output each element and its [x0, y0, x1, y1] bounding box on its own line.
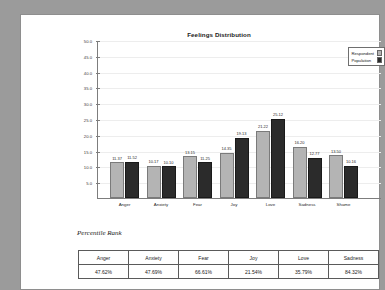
y-axis-tick-label: 5.0 — [86, 181, 92, 186]
y-axis-tick-label: 10.0 — [84, 165, 92, 170]
bar-value-label: 21.22 — [258, 124, 268, 129]
bar-respondent-sadness — [293, 147, 307, 198]
bar-value-label: 14.35 — [221, 146, 231, 151]
x-axis-line — [97, 198, 381, 199]
legend-label: Respondent — [351, 51, 374, 56]
y-axis-tick — [96, 167, 100, 168]
bar-respondent-shame — [329, 155, 343, 198]
category-label-love: Love — [266, 202, 276, 207]
table-col-header-anxiety: Anxiety — [129, 251, 179, 265]
y-axis-tick — [96, 183, 100, 184]
bar-value-label: 13.50 — [331, 149, 341, 154]
table-col-header-sadness: Sadness — [329, 251, 379, 265]
chart-title: Feelings Distribution — [139, 31, 299, 38]
y-axis-tick — [96, 57, 100, 58]
y-axis-tick-label: 35.0 — [84, 86, 92, 91]
category-label-fear: Fear — [193, 202, 202, 207]
bar-respondent-anger — [110, 162, 124, 198]
bar-value-label: 11.52 — [127, 155, 137, 160]
y-axis-tick — [96, 88, 100, 89]
chart-legend: Respondent Population — [348, 47, 385, 66]
bar-population-anger — [125, 162, 139, 198]
table-col-header-joy: Joy — [229, 251, 279, 265]
bar-respondent-joy — [220, 153, 234, 198]
y-axis-tick-label: 40.0 — [84, 70, 92, 75]
bar-value-label: 11.25 — [200, 156, 210, 161]
y-axis-tick — [96, 104, 100, 105]
legend-swatch-respondent — [377, 50, 382, 56]
table-cell-sadness: 84.32% — [329, 265, 379, 279]
gridline — [98, 41, 381, 42]
table-cell-love: 35.79% — [279, 265, 329, 279]
bar-respondent-love — [256, 131, 270, 198]
percentile-rank-table: AngerAnxietyFearJoyLoveSadness 47.62%47.… — [78, 250, 379, 279]
bar-population-fear — [198, 162, 212, 198]
bar-value-label: 10.16 — [346, 159, 356, 164]
legend-label: Population — [351, 58, 371, 63]
category-label-anxiety: Anxiety — [154, 202, 168, 207]
y-axis-tick — [96, 136, 100, 137]
chart-plot-area: 5.010.015.020.025.030.035.040.045.050.0 … — [97, 41, 381, 199]
table-header-row: AngerAnxietyFearJoyLoveSadness — [79, 251, 379, 265]
table-col-header-fear: Fear — [179, 251, 229, 265]
document-page: Feelings Distribution 5.010.015.020.025.… — [20, 14, 380, 290]
category-label-joy: Joy — [231, 202, 238, 207]
bar-population-shame — [344, 166, 358, 198]
table-cell-fear: 66.61% — [179, 265, 229, 279]
table-col-header-love: Love — [279, 251, 329, 265]
bar-population-sadness — [308, 158, 322, 198]
legend-item-population: Population — [351, 57, 382, 64]
y-axis-tick — [96, 41, 100, 42]
bar-value-label: 10.17 — [148, 159, 158, 164]
y-axis-tick — [96, 73, 100, 74]
bar-value-label: 25.12 — [273, 112, 283, 117]
feelings-distribution-chart: Feelings Distribution 5.010.015.020.025.… — [21, 15, 381, 220]
table-row: 47.62%47.69%66.61%21.54%35.79%84.32% — [79, 265, 379, 279]
table-cell-anger: 47.62% — [79, 265, 129, 279]
category-label-sadness: Sadness — [298, 202, 315, 207]
bar-value-label: 19.13 — [236, 131, 246, 136]
y-axis-tick-label: 30.0 — [84, 102, 92, 107]
table-cell-joy: 21.54% — [229, 265, 279, 279]
percentile-rank-heading: Percentile Rank — [77, 229, 122, 237]
bar-respondent-fear — [183, 156, 197, 198]
category-label-shame: Shame — [337, 202, 351, 207]
bar-value-label: 12.77 — [309, 151, 319, 156]
y-axis-tick — [96, 152, 100, 153]
bar-value-label: 16.20 — [294, 140, 304, 145]
table-col-header-anger: Anger — [79, 251, 129, 265]
gridline — [98, 104, 381, 105]
y-axis-tick-label: 50.0 — [84, 39, 92, 44]
table-cell-anxiety: 47.69% — [129, 265, 179, 279]
y-axis-tick-label: 25.0 — [84, 118, 92, 123]
bar-value-label: 11.37 — [112, 156, 122, 161]
y-axis-tick-label: 45.0 — [84, 54, 92, 59]
y-axis-tick — [96, 120, 100, 121]
y-axis-tick-label: 20.0 — [84, 133, 92, 138]
bar-value-label: 13.15 — [185, 150, 195, 155]
y-axis-tick-label: 15.0 — [84, 149, 92, 154]
bar-population-joy — [235, 138, 249, 198]
bar-population-anxiety — [162, 166, 176, 198]
gridline — [98, 73, 381, 74]
gridline — [98, 88, 381, 89]
gridline — [98, 57, 381, 58]
gridline — [98, 120, 381, 121]
bar-population-love — [271, 119, 285, 198]
category-label-anger: Anger — [119, 202, 131, 207]
bar-value-label: 10.10 — [163, 160, 173, 165]
legend-item-respondent: Respondent — [351, 50, 382, 57]
bar-respondent-anxiety — [147, 166, 161, 198]
legend-swatch-population — [377, 57, 382, 63]
